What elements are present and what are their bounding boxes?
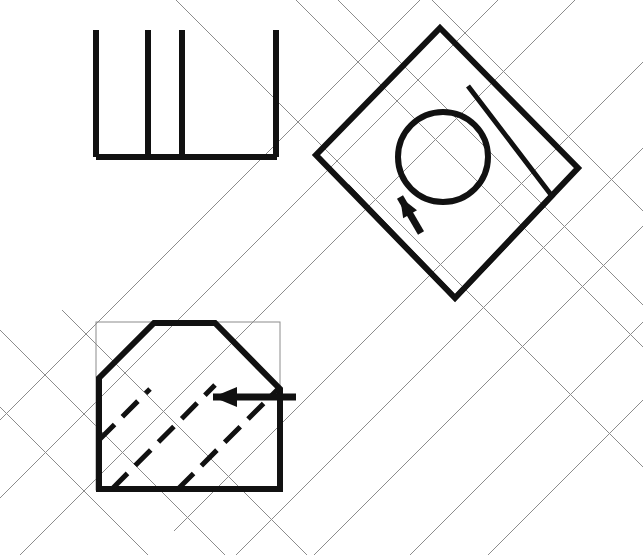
front-view-outline xyxy=(99,323,280,489)
projection-line xyxy=(0,0,420,420)
projection-line xyxy=(410,322,643,555)
projection-line xyxy=(236,148,643,555)
front-view-construction-box xyxy=(96,322,280,490)
engineering-drawing-canvas xyxy=(0,0,643,555)
projection-line xyxy=(488,400,643,555)
projection-line xyxy=(296,0,643,347)
projection-line xyxy=(0,0,498,498)
top-view-vertical-lines xyxy=(96,30,276,157)
front-view-direction-arrow xyxy=(213,387,296,407)
drawing-svg-surface xyxy=(0,0,643,555)
auxiliary-circle-hole xyxy=(398,112,488,202)
view-top xyxy=(96,30,277,157)
hidden-edge-line xyxy=(112,385,215,489)
view-front xyxy=(99,323,296,489)
auxiliary-inner-square xyxy=(347,86,552,298)
projection-line xyxy=(0,407,148,555)
front-arrow-head xyxy=(213,387,237,407)
